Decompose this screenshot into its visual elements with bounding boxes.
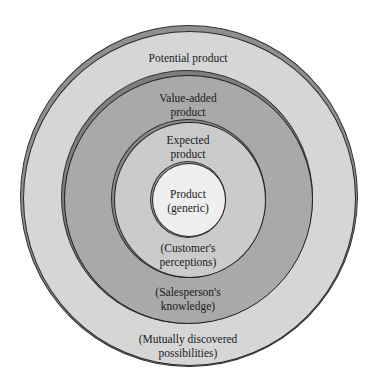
value-added-product-label: Value-added product: [88, 91, 288, 119]
expected-line2: product: [88, 147, 288, 161]
mutually-line1: (Mutually discovered: [88, 332, 288, 346]
mutually-line2: possibilities): [88, 346, 288, 360]
potential-product-title: Potential product: [88, 51, 288, 65]
customer-line1: (Customer's: [88, 241, 288, 255]
value-added-line2: product: [88, 105, 288, 119]
generic-line1: Product: [88, 187, 288, 201]
potential-product-label: Potential product: [88, 51, 288, 65]
value-added-line1: Value-added: [88, 91, 288, 105]
mutually-discovered-label: (Mutually discovered possibilities): [88, 332, 288, 360]
expected-line1: Expected: [88, 133, 288, 147]
customer-line2: perceptions): [88, 255, 288, 269]
salesperson-knowledge-label: (Salesperson's knowledge): [88, 285, 288, 313]
generic-line2: (generic): [88, 201, 288, 215]
salesperson-line2: knowledge): [88, 299, 288, 313]
salesperson-line1: (Salesperson's: [88, 285, 288, 299]
generic-product-label: Product (generic): [88, 187, 288, 215]
expected-product-label: Expected product: [88, 133, 288, 161]
customer-perceptions-label: (Customer's perceptions): [88, 241, 288, 269]
